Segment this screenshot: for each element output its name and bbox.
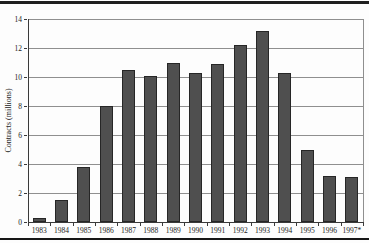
gridline-y14 [28, 19, 363, 20]
bar-1986 [100, 106, 113, 222]
y-tick-2 [24, 193, 27, 194]
y-tick-0 [24, 222, 27, 223]
y-tick-10 [24, 77, 27, 78]
bar-1989 [167, 63, 180, 223]
x-tick-9 [229, 223, 230, 226]
bar-1991 [211, 64, 224, 222]
x-tick-5 [140, 223, 141, 226]
x-tick-1 [50, 223, 51, 226]
y-axis-title: Contracts (millions) [4, 66, 13, 176]
y-tick-14 [24, 19, 27, 20]
y-tick-label-0: 0 [6, 219, 22, 226]
y-tick-label-14: 14 [6, 16, 22, 23]
bar-1994 [278, 73, 291, 222]
x-tick-label-1996: 1996 [318, 227, 340, 235]
x-tick-label-1988: 1988 [140, 227, 162, 235]
bar-1985 [77, 167, 90, 222]
x-tick-label-1985: 1985 [73, 227, 95, 235]
bar-1987 [122, 70, 135, 222]
bar-1997* [345, 177, 358, 222]
x-tick-label-1987: 1987 [117, 227, 139, 235]
x-tick-11 [274, 223, 275, 226]
plot-right-border [363, 19, 364, 222]
bar-chart: Contracts (millions) 0246810121419831984… [0, 0, 369, 243]
x-tick-label-1986: 1986 [95, 227, 117, 235]
y-tick-12 [24, 48, 27, 49]
bar-1992 [234, 45, 247, 222]
x-tick-label-1992: 1992 [229, 227, 251, 235]
x-tick-0 [28, 223, 29, 226]
y-tick-6 [24, 135, 27, 136]
x-tick-label-1989: 1989 [162, 227, 184, 235]
x-tick-10 [251, 223, 252, 226]
x-tick-label-1984: 1984 [50, 227, 72, 235]
x-tick-label-1991: 1991 [207, 227, 229, 235]
bar-1993 [256, 31, 269, 222]
x-tick-13 [318, 223, 319, 226]
y-axis-line [28, 19, 29, 222]
x-tick-14 [341, 223, 342, 226]
x-tick-label-1997*: 1997* [341, 227, 363, 235]
x-tick-3 [95, 223, 96, 226]
bar-1996 [323, 176, 336, 222]
bar-1984 [55, 200, 68, 222]
y-tick-label-10: 10 [6, 74, 22, 81]
x-tick-label-1990: 1990 [184, 227, 206, 235]
y-tick-label-6: 6 [6, 132, 22, 139]
figure: Contracts (millions) 0246810121419831984… [0, 0, 369, 243]
x-tick-6 [162, 223, 163, 226]
x-tick-7 [184, 223, 185, 226]
x-tick-12 [296, 223, 297, 226]
x-tick-15 [363, 223, 364, 226]
x-tick-4 [117, 223, 118, 226]
bar-1988 [144, 76, 157, 222]
y-tick-label-12: 12 [6, 45, 22, 52]
y-tick-label-4: 4 [6, 161, 22, 168]
x-tick-8 [207, 223, 208, 226]
x-tick-2 [73, 223, 74, 226]
y-tick-label-2: 2 [6, 190, 22, 197]
x-tick-label-1994: 1994 [274, 227, 296, 235]
x-axis-line [28, 222, 364, 223]
bar-1990 [189, 73, 202, 222]
bar-1995 [301, 150, 314, 223]
gridline-y12 [28, 48, 363, 49]
y-tick-4 [24, 164, 27, 165]
y-tick-8 [24, 106, 27, 107]
x-tick-label-1995: 1995 [296, 227, 318, 235]
x-tick-label-1993: 1993 [251, 227, 273, 235]
y-tick-label-8: 8 [6, 103, 22, 110]
x-tick-label-1983: 1983 [28, 227, 50, 235]
